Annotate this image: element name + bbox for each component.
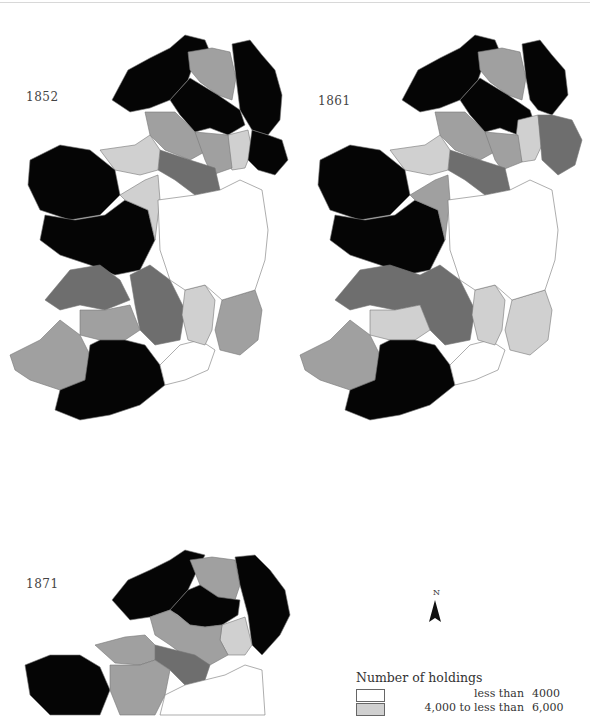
ireland-county-map-1852 — [0, 0, 300, 430]
map-1871: 1871 — [0, 555, 300, 715]
map-1861: 1861 — [290, 0, 590, 430]
legend-swatch-white — [356, 689, 385, 702]
legend: Number of holdings less than 4000 4,000 … — [356, 670, 586, 717]
legend-title: Number of holdings — [356, 670, 586, 685]
legend-value: 6,000 — [532, 701, 564, 714]
legend-swatch-light-grey — [356, 703, 385, 716]
map-1852: 1852 — [0, 0, 300, 430]
north-arrow-icon — [428, 600, 448, 630]
legend-item-4000-to-6000: 4,000 to less than 6,000 — [356, 703, 586, 717]
north-label: N — [433, 588, 440, 597]
north-arrow: N — [428, 588, 448, 628]
ireland-county-map-1871 — [0, 555, 300, 715]
legend-label: 4,000 to less than — [425, 701, 525, 714]
legend-label: less than — [474, 687, 524, 700]
ireland-county-map-1861 — [290, 0, 590, 430]
legend-value: 4000 — [532, 687, 560, 700]
